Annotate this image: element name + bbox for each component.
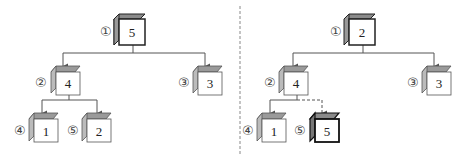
- node-value: 3: [436, 76, 443, 91]
- right-node-4: ④ 1: [242, 113, 286, 142]
- node-index-label: ①: [330, 24, 342, 39]
- node-value: 2: [359, 25, 366, 40]
- left-node-4: ④ 1: [14, 113, 58, 142]
- right-node-2: ② 4: [264, 66, 308, 95]
- node-value: 3: [207, 76, 214, 91]
- node-value: 2: [96, 124, 103, 139]
- right-node-5-highlighted: ⑤ 5: [294, 113, 339, 142]
- left-node-1: ① 5: [100, 14, 145, 45]
- node-value: 1: [271, 124, 278, 139]
- heap-diagram: ① 5 ② 4 ③ 3 ④ 1 ⑤ 2 ① 2: [0, 0, 462, 159]
- node-index-label: ③: [178, 75, 190, 90]
- left-node-3: ③ 3: [178, 66, 222, 95]
- node-value: 4: [65, 76, 72, 91]
- node-index-label: ⑤: [67, 123, 79, 138]
- node-index-label: ③: [407, 75, 419, 90]
- node-index-label: ⑤: [294, 123, 306, 138]
- node-index-label: ④: [14, 123, 26, 138]
- node-index-label: ④: [242, 123, 254, 138]
- right-node-1: ① 2: [330, 14, 375, 45]
- left-node-2: ② 4: [35, 66, 80, 95]
- right-node-3: ③ 3: [407, 66, 451, 95]
- node-index-label: ②: [264, 75, 276, 90]
- node-value: 5: [324, 124, 331, 139]
- node-value: 5: [129, 25, 136, 40]
- left-node-5: ⑤ 2: [67, 113, 111, 142]
- node-index-label: ②: [35, 75, 47, 90]
- node-index-label: ①: [100, 24, 112, 39]
- node-value: 4: [293, 76, 300, 91]
- node-value: 1: [43, 124, 50, 139]
